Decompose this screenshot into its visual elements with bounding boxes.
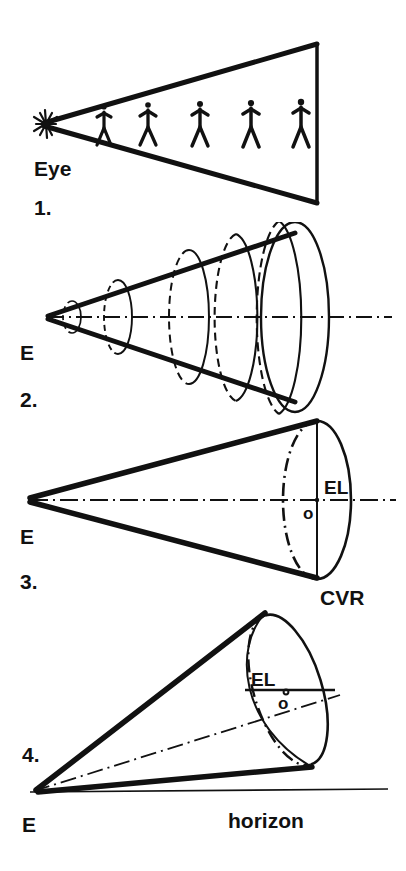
panel-3-number: 3. bbox=[20, 570, 38, 593]
panel-1-number: 1. bbox=[34, 196, 52, 219]
stick-figure-group bbox=[97, 99, 309, 147]
panel-3-eye-label: E bbox=[20, 525, 34, 548]
panel-3-center-label: o bbox=[303, 504, 313, 523]
panel-2-sections bbox=[63, 222, 301, 414]
eye-point-starburst-icon bbox=[34, 110, 57, 138]
panel-4: EL o horizon 4. E bbox=[0, 600, 406, 871]
panel-1-eye-label: Eye bbox=[34, 157, 71, 180]
panel-2-eye-label: E bbox=[20, 341, 34, 364]
panel-2-number: 2. bbox=[20, 388, 38, 411]
panel-4-number: 4. bbox=[22, 743, 40, 766]
panel-1: Eye 1. bbox=[0, 0, 406, 225]
stick-figure bbox=[140, 102, 156, 145]
panel-3-eye-level-label: EL bbox=[324, 477, 349, 498]
panel-4-eye-label: E bbox=[22, 813, 36, 836]
stick-figure bbox=[192, 101, 208, 146]
panel-3: EL o CVR E 3. bbox=[0, 415, 406, 610]
stick-figure bbox=[293, 99, 309, 147]
panel-3-center-point bbox=[315, 498, 319, 502]
panel-2: E 2. bbox=[0, 222, 406, 422]
panel-4-center-label: o bbox=[278, 694, 288, 713]
panel-1-cone-outline bbox=[44, 44, 317, 203]
stick-figure bbox=[97, 104, 111, 145]
stick-figure bbox=[243, 100, 259, 147]
panel-4-eye-level-label: EL bbox=[251, 669, 276, 690]
panel-4-cone-outline bbox=[36, 613, 312, 792]
panel-4-horizon-label: horizon bbox=[228, 809, 304, 832]
diagram-canvas: Eye 1. bbox=[0, 0, 406, 871]
